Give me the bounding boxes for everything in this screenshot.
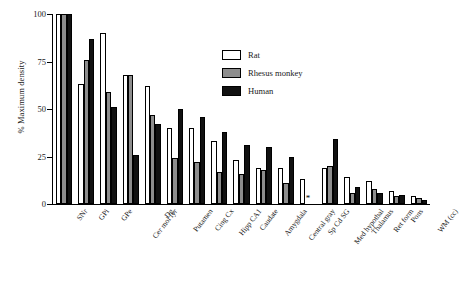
bar-group: [363, 14, 385, 204]
bar-rat: [300, 179, 305, 204]
chart-legend: RatRhesus monkeyHuman: [222, 48, 362, 102]
bar-group: [142, 14, 164, 204]
bar-group: [53, 14, 75, 204]
bar-human: [289, 157, 294, 205]
bar-human: [200, 117, 205, 204]
bar-human: [178, 109, 183, 204]
bar-group: [75, 14, 97, 204]
x-tick-label: GPi: [97, 207, 111, 222]
legend-item-rhesus: Rhesus monkey: [222, 66, 362, 80]
x-tick-label: Amygdala: [282, 207, 309, 237]
y-tick-label: 0: [18, 199, 46, 209]
y-tick-label: 25: [18, 152, 46, 162]
bar-human: [244, 145, 249, 204]
bar-human: [89, 39, 94, 204]
bar-group: [97, 14, 119, 204]
bar-group: [275, 14, 297, 204]
y-tick-label: 50: [18, 104, 46, 114]
bar-human: [222, 132, 227, 204]
bar-human: [266, 147, 271, 204]
y-tick-label: 100: [18, 9, 46, 19]
bar-group: [120, 14, 142, 204]
bar-human: [111, 107, 116, 204]
bar-human: [155, 124, 160, 204]
bar-human: [133, 155, 138, 204]
legend-label: Rat: [248, 50, 260, 60]
y-axis-title: % Maximum density: [16, 32, 26, 162]
bar-group: *: [297, 14, 319, 204]
bar-human: [377, 193, 382, 204]
x-tick-label: GPe: [119, 207, 134, 223]
legend-label: Rhesus monkey: [248, 68, 303, 78]
legend-swatch-human: [222, 86, 241, 96]
y-tick-mark: [47, 109, 52, 110]
x-tick-label: Cing Cx: [213, 207, 236, 233]
y-tick-mark: [47, 157, 52, 158]
x-tick-label: SNr: [75, 207, 90, 222]
y-tick-label: 75: [18, 57, 46, 67]
bar-human: [333, 139, 338, 204]
x-tick-label: Putamen: [191, 207, 214, 233]
y-tick-mark: [47, 204, 52, 205]
bar-group: [386, 14, 408, 204]
bar-group: [186, 14, 208, 204]
bar-group: [230, 14, 252, 204]
bar-group: [341, 14, 363, 204]
bar-group: [208, 14, 230, 204]
bar-human: [422, 200, 427, 204]
legend-item-human: Human: [222, 84, 362, 98]
bar-group: [164, 14, 186, 204]
x-axis-labels: SNrGPiGPeCer mol lyrDgPutamenCing CxHipp…: [53, 207, 430, 291]
x-axis-line: [52, 204, 430, 205]
legend-swatch-rhesus: [222, 68, 241, 78]
legend-swatch-rat: [222, 50, 241, 60]
bar-group: [319, 14, 341, 204]
x-tick-label: WM (cc): [436, 207, 460, 234]
legend-label: Human: [248, 86, 273, 96]
missing-data-asterisk: *: [306, 194, 311, 203]
bar-human: [355, 187, 360, 204]
bar-human: [399, 195, 404, 205]
y-tick-mark: [47, 14, 52, 15]
bar-group: [253, 14, 275, 204]
bar-group: [408, 14, 430, 204]
plot-area: 0255075100 *: [52, 14, 430, 205]
bar-human: [67, 14, 72, 204]
bars-layer: *: [53, 14, 430, 204]
legend-item-rat: Rat: [222, 48, 362, 62]
y-tick-mark: [47, 62, 52, 63]
